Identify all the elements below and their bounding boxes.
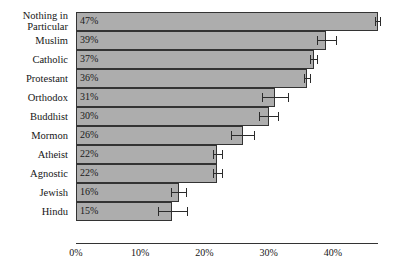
category-label: Orthodox [28, 92, 68, 103]
x-tick-label: 30% [259, 247, 277, 258]
bar-row: 37% [76, 50, 402, 69]
error-bar [213, 164, 222, 183]
bar [76, 88, 275, 107]
x-tick-label: 20% [195, 247, 213, 258]
error-bar-cap-low [171, 188, 172, 197]
error-bar-cap-high [186, 188, 187, 197]
error-bar-cap-high [288, 93, 289, 102]
error-bar [259, 107, 278, 126]
error-bar-cap-low [259, 112, 260, 121]
bar [76, 50, 314, 69]
x-tick-label: 40% [324, 247, 342, 258]
error-bar-line [262, 97, 288, 98]
bar [76, 12, 378, 31]
error-bar [231, 126, 254, 145]
error-bar-line [259, 116, 278, 117]
bar-row: 31% [76, 88, 402, 107]
bar-row: 16% [76, 183, 402, 202]
bar [76, 31, 326, 50]
error-bar-line [158, 211, 188, 212]
bar-value-label: 31% [80, 91, 98, 103]
error-bar-line [317, 40, 336, 41]
bar [76, 126, 243, 145]
bar-value-label: 26% [80, 129, 98, 141]
error-bar [310, 50, 318, 69]
x-axis-baseline [76, 243, 378, 244]
bar [76, 107, 269, 126]
category-label: Muslim [35, 35, 68, 46]
bar-value-label: 36% [80, 72, 98, 84]
error-bar-cap-high [187, 207, 188, 216]
error-bar-cap-high [222, 150, 223, 159]
error-bar-cap-low [317, 36, 318, 45]
bar-row: 36% [76, 69, 402, 88]
error-bar-cap-high [254, 131, 255, 140]
error-bar-line [213, 154, 222, 155]
bar-value-label: 22% [80, 167, 98, 179]
error-bar [317, 31, 336, 50]
error-bar-cap-low [310, 55, 311, 64]
bar-row: 22% [76, 164, 402, 183]
bar-value-label: 22% [80, 148, 98, 160]
category-label: Jewish [39, 187, 68, 198]
x-tick-label: 10% [131, 247, 149, 258]
category-label: Mormon [31, 130, 68, 141]
category-label: Atheist [38, 149, 68, 160]
bar-value-label: 47% [80, 15, 98, 27]
error-bar [213, 145, 222, 164]
bar-row: 26% [76, 126, 402, 145]
bar-row: 15% [76, 202, 402, 221]
error-bar [304, 69, 310, 88]
category-label: Buddhist [30, 111, 68, 122]
bar-row: 30% [76, 107, 402, 126]
error-bar [262, 88, 288, 107]
error-bar-cap-high [380, 17, 381, 26]
error-bar-cap-high [336, 36, 337, 45]
bar-row: 22% [76, 145, 402, 164]
bar-value-label: 16% [80, 186, 98, 198]
bar-value-label: 39% [80, 34, 98, 46]
error-bar-cap-low [304, 74, 305, 83]
error-bar-cap-low [158, 207, 159, 216]
error-bar-line [213, 173, 222, 174]
category-label: Catholic [32, 54, 68, 65]
bar-row: 47% [76, 12, 402, 31]
error-bar [171, 183, 186, 202]
error-bar-cap-low [262, 93, 263, 102]
error-bar [375, 12, 380, 31]
category-label: Protestant [26, 73, 68, 84]
error-bar-cap-high [278, 112, 279, 121]
error-bar-cap-high [317, 55, 318, 64]
category-label: Hindu [42, 206, 68, 217]
bar-value-label: 37% [80, 53, 98, 65]
error-bar-cap-low [213, 169, 214, 178]
bar [76, 69, 307, 88]
error-bar-line [310, 59, 318, 60]
error-bar-line [231, 135, 254, 136]
x-axis: 0%10%20%30%40% [76, 243, 402, 271]
bar-value-label: 15% [80, 205, 98, 217]
category-label: Nothing in Particular [2, 10, 68, 32]
bar-row: 39% [76, 31, 402, 50]
error-bar-cap-high [222, 169, 223, 178]
error-bar [158, 202, 188, 221]
category-label: Agnostic [30, 168, 68, 179]
error-bar-cap-low [213, 150, 214, 159]
error-bar-cap-high [310, 74, 311, 83]
error-bar-cap-low [375, 17, 376, 26]
error-bar-cap-low [231, 131, 232, 140]
bar-value-label: 30% [80, 110, 98, 122]
x-tick-label: 0% [69, 247, 82, 258]
error-bar-line [171, 192, 186, 193]
horizontal-bar-chart: Nothing in ParticularMuslimCatholicProte… [0, 0, 402, 271]
plot-area: 47%39%37%36%31%30%26%22%22%16%15% [76, 0, 402, 243]
